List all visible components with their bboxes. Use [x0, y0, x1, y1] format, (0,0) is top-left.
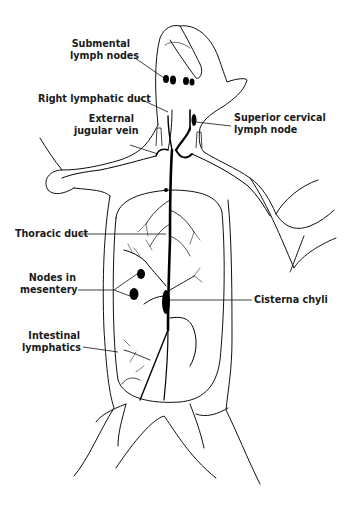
label-line: mesentery	[20, 284, 76, 296]
mesentery-node	[130, 288, 139, 300]
label-line: lymph node	[234, 124, 326, 136]
label-right-lymphatic-duct: Right lymphatic duct	[38, 93, 151, 105]
label-line: lymphatics	[22, 342, 80, 354]
label-line: jugular vein	[74, 125, 134, 137]
submental-node	[190, 79, 195, 86]
label-external-jugular-vein: External jugular vein	[74, 113, 134, 137]
label-superior-cervical-lymph-node: Superior cervical lymph node	[234, 112, 326, 136]
label-nodes-in-mesentery: Nodes in mesentery	[20, 272, 76, 296]
superior-cervical-node	[192, 114, 197, 126]
mesentery-node	[137, 269, 145, 279]
cisterna-chyli	[162, 290, 170, 314]
label-line: lymph nodes	[70, 50, 130, 62]
submental-node	[170, 76, 176, 85]
label-line: Superior cervical	[234, 112, 326, 124]
label-line: External	[74, 113, 134, 125]
submental-node	[183, 77, 189, 85]
label-submental-lymph-nodes: Submental lymph nodes	[70, 38, 130, 62]
label-thoracic-duct: Thoracic duct	[15, 228, 88, 240]
label-line: Nodes in	[20, 272, 76, 284]
label-intestinal-lymphatics: Intestinal lymphatics	[22, 330, 80, 354]
label-line: Intestinal	[22, 330, 80, 342]
label-line: Submental	[70, 38, 130, 50]
frog-lymphatic-diagram	[0, 0, 349, 506]
label-cisterna-chyli: Cisterna chyli	[254, 294, 328, 306]
submental-node	[163, 75, 169, 83]
